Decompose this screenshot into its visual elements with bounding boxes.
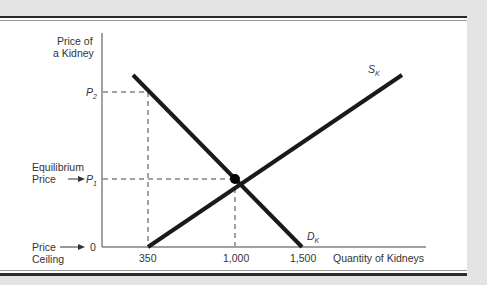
equilibrium-price-line1: Equilibrium — [32, 161, 84, 173]
y-axis-title-line1: Price of — [57, 35, 93, 47]
x-tick-1500: 1,500 — [290, 252, 316, 264]
y-axis-title-line2: a Kidney — [53, 47, 94, 59]
p2-label: P2 — [86, 86, 97, 103]
equilibrium-point — [230, 174, 240, 184]
ceiling-arrow-head — [78, 244, 85, 250]
demand-label: DK — [307, 230, 319, 247]
equilibrium-price-line2: Price — [32, 173, 56, 185]
x-tick-350: 350 — [139, 252, 157, 264]
zero-label: 0 — [90, 241, 96, 253]
p1-label: P1 — [86, 173, 97, 190]
x-tick-1000: 1,000 — [223, 252, 249, 264]
supply-label: SK — [368, 63, 380, 80]
price-ceiling-line2: Ceiling — [32, 253, 64, 265]
eq-arrow-head — [78, 176, 85, 182]
price-ceiling-line1: Price — [32, 241, 56, 253]
x-axis-title: Quantity of Kidneys — [333, 252, 424, 264]
